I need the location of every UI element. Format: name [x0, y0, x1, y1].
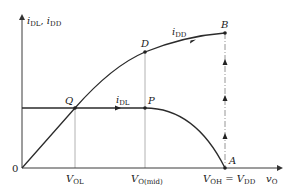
- point-q-label: Q: [65, 95, 73, 106]
- idl-curve: [22, 108, 225, 168]
- dashed-arrow-icon-2: [223, 95, 228, 101]
- dashed-arrow-icon-3: [223, 59, 228, 65]
- vomid-tick-label: VO(mid): [131, 173, 163, 186]
- idl-curve-label: iDL: [116, 94, 130, 107]
- point-b-label: B: [220, 19, 228, 30]
- point-p-dot: [143, 106, 147, 110]
- point-p-label: P: [147, 95, 155, 106]
- idd-curve-label: iDD: [172, 26, 187, 39]
- point-d-dot: [143, 50, 147, 54]
- load-line-diagram: Q P D B A iDL iDD iDL, iDD vO 0 VOL VO(m…: [0, 0, 290, 194]
- point-a-label: A: [228, 155, 236, 166]
- point-d-label: D: [140, 38, 149, 49]
- point-q-dot: [73, 106, 77, 110]
- origin-label: 0: [12, 163, 18, 174]
- y-axis-label: iDL, iDD: [27, 15, 62, 28]
- vol-tick-label: VOL: [66, 173, 84, 186]
- dashed-arrow-icon-1: [223, 133, 228, 139]
- voh-vdd-tick-label: VOH = VDD: [203, 173, 256, 186]
- point-b-dot: [223, 31, 227, 35]
- point-a-dot: [223, 166, 227, 170]
- idd-direction-arrow-icon: [190, 40, 196, 44]
- x-axis-label: vO: [266, 173, 278, 186]
